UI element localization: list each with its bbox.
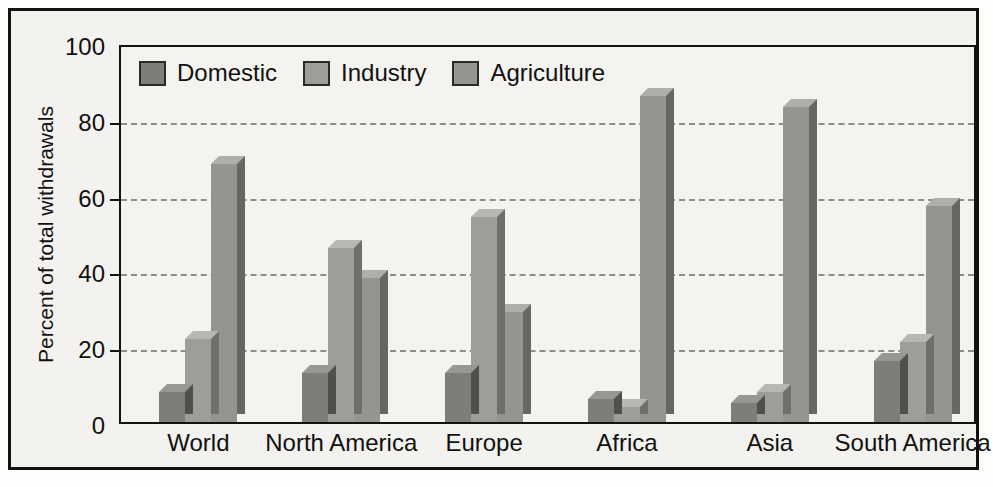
bar-side-shadow: [900, 353, 908, 414]
bar-group: [445, 47, 523, 422]
bar-group: [588, 47, 666, 422]
bar-face: [640, 96, 666, 422]
bar-group: [302, 47, 380, 422]
bar-side-shadow: [471, 365, 479, 414]
bar-side-shadow: [809, 99, 817, 414]
bar-world-domestic[interactable]: [159, 392, 185, 422]
bar-group: [159, 47, 237, 422]
y-axis-tick-label: 80: [78, 111, 105, 135]
bar-side-shadow: [666, 88, 674, 414]
bar-face: [302, 373, 328, 422]
x-axis-tick-label: Asia: [746, 429, 793, 457]
bar-group: [731, 47, 809, 422]
bar-side-shadow: [926, 334, 934, 414]
bar-asia-domestic[interactable]: [731, 403, 757, 422]
x-axis-tick-label: Europe: [445, 429, 522, 457]
bar-face: [783, 107, 809, 422]
y-axis-tick: [110, 274, 121, 276]
bar-series-container: [121, 47, 974, 422]
plot-area: 020406080100 DomesticIndustryAgriculture…: [119, 45, 976, 424]
x-axis-tick-label: South America: [835, 429, 991, 457]
bar-south-america-domestic[interactable]: [874, 361, 900, 422]
bar-side-shadow: [211, 331, 219, 414]
bar-side-shadow: [354, 240, 362, 414]
x-axis-tick-label: World: [167, 429, 229, 457]
bar-face: [588, 399, 614, 422]
bar-face: [731, 403, 757, 422]
bar-side-shadow: [952, 198, 960, 414]
bar-face: [445, 373, 471, 422]
bar-asia-agriculture[interactable]: [783, 107, 809, 422]
y-axis-tick: [110, 123, 121, 125]
y-axis-title: Percent of total withdrawals: [31, 45, 61, 424]
y-axis-tick-label: 100: [65, 35, 105, 59]
y-axis-tick-label: 40: [78, 262, 105, 286]
bar-side-shadow: [497, 209, 505, 414]
bar-side-shadow: [380, 270, 388, 414]
bar-side-shadow: [328, 365, 336, 414]
bar-side-shadow: [523, 304, 531, 414]
y-axis-tick: [110, 199, 121, 201]
bar-africa-agriculture[interactable]: [640, 96, 666, 422]
x-axis-tick-label: Africa: [596, 429, 657, 457]
bar-side-shadow: [237, 156, 245, 414]
x-axis-tick-label: North America: [265, 429, 417, 457]
bar-africa-domestic[interactable]: [588, 399, 614, 422]
bar-group: [874, 47, 952, 422]
bar-europe-domestic[interactable]: [445, 373, 471, 422]
y-axis-tick-label: 0: [92, 414, 105, 438]
bar-face: [874, 361, 900, 422]
chart-figure: Percent of total withdrawals 02040608010…: [0, 0, 993, 487]
bar-face: [159, 392, 185, 422]
chart-frame: Percent of total withdrawals 02040608010…: [8, 8, 979, 470]
bar-north-america-domestic[interactable]: [302, 373, 328, 422]
y-axis-tick-label: 60: [78, 187, 105, 211]
y-axis-tick-label: 20: [78, 338, 105, 362]
y-axis-tick: [110, 350, 121, 352]
